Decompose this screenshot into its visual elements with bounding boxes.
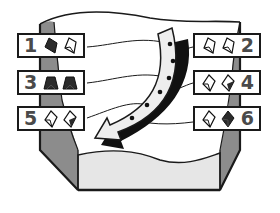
light-tile-icon [62,37,78,55]
curved-arrow [95,28,189,149]
label-number: 1 [24,36,37,55]
label-number: 6 [241,109,254,128]
label-3: 3 [17,70,85,95]
light-tile-icon [201,110,217,128]
dark-tile-icon [43,37,59,55]
label-2: 2 [193,33,261,58]
top-wave [40,12,240,24]
dark-trapezoid-icon [62,74,78,92]
label-number: 4 [241,73,254,92]
dark-trapezoid-icon [43,74,59,92]
label-4: 4 [193,70,261,95]
label-5: 5 [17,106,85,131]
light-tile-icon [220,37,236,55]
label-number: 3 [24,73,37,92]
bottom-container [78,151,220,190]
light-tile-icon [201,37,217,55]
label-6: 6 [193,106,261,131]
light-tile-icon [43,110,59,128]
half-dark-tile-icon [220,74,236,92]
light-tile-icon [201,74,217,92]
label-number: 2 [241,36,254,55]
dark-tile-icon [220,110,236,128]
label-number: 5 [24,109,37,128]
half-dark-tile-icon [62,110,78,128]
label-1: 1 [17,33,85,58]
